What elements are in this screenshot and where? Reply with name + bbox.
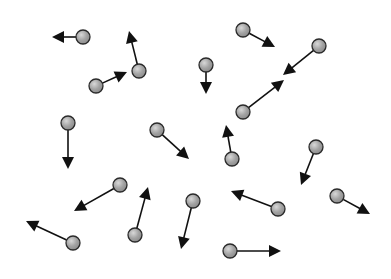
ball-icon: [61, 116, 75, 130]
particle-p: [231, 190, 285, 216]
arrowhead-icon: [222, 125, 234, 138]
ball-icon: [128, 228, 142, 242]
arrowhead-icon: [271, 80, 284, 92]
velocity-arrow-shaft: [36, 226, 67, 240]
velocity-arrow-shaft: [305, 154, 313, 175]
particle-d: [236, 23, 275, 47]
ball-icon: [225, 152, 239, 166]
particle-k: [300, 140, 323, 185]
arrowhead-icon: [139, 187, 151, 200]
ball-icon: [271, 202, 285, 216]
velocity-arrow-shaft: [102, 77, 117, 84]
ball-icon: [76, 30, 90, 44]
velocity-arrow-shaft: [249, 87, 276, 108]
ball-icon: [199, 58, 213, 72]
ball-icon: [150, 123, 164, 137]
particle-c: [89, 71, 127, 93]
velocity-arrow-shaft: [137, 198, 145, 229]
particle-a: [52, 30, 90, 44]
ball-icon: [330, 189, 344, 203]
particle-diagram: [0, 0, 391, 279]
ball-icon: [89, 79, 103, 93]
particles-group: [26, 23, 370, 258]
ball-icon: [236, 23, 250, 37]
ball-icon: [312, 39, 326, 53]
velocity-arrow-shaft: [249, 33, 265, 42]
particle-j: [222, 125, 239, 166]
arrowhead-icon: [126, 31, 138, 44]
particle-f: [199, 58, 213, 94]
ball-icon: [132, 64, 146, 78]
arrowhead-icon: [283, 63, 296, 75]
ball-icon: [113, 178, 127, 192]
arrowhead-icon: [178, 236, 190, 249]
particle-e: [283, 39, 326, 75]
arrowhead-icon: [200, 82, 212, 94]
particle-o: [178, 194, 200, 249]
ball-icon: [223, 244, 237, 258]
particle-q: [330, 189, 370, 214]
particle-l: [74, 178, 127, 211]
ball-icon: [186, 194, 200, 208]
particle-h: [61, 116, 75, 169]
velocity-arrow-shaft: [162, 135, 181, 152]
particle-m: [26, 221, 80, 250]
arrowhead-icon: [52, 31, 64, 43]
velocity-arrow-shaft: [343, 199, 360, 208]
ball-icon: [309, 140, 323, 154]
velocity-arrow-shaft: [132, 42, 138, 65]
particle-r: [223, 244, 281, 258]
arrowhead-icon: [269, 245, 281, 257]
ball-icon: [66, 236, 80, 250]
velocity-arrow-shaft: [184, 208, 192, 239]
velocity-arrow-shaft: [241, 195, 271, 207]
particle-i: [150, 123, 189, 159]
velocity-arrow-shaft: [228, 136, 231, 152]
velocity-arrow-shaft: [292, 50, 314, 68]
arrowhead-icon: [62, 157, 74, 169]
particle-n: [128, 187, 151, 242]
particle-g: [236, 80, 284, 119]
ball-icon: [236, 105, 250, 119]
velocity-arrow-shaft: [84, 188, 114, 205]
particle-b: [126, 31, 146, 78]
